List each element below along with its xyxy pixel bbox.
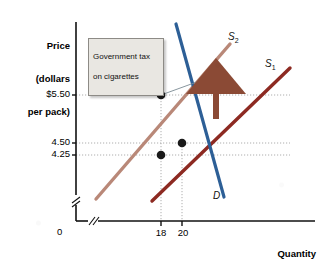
x-axis-title: Quantity (billions of packs per year) xyxy=(208,226,316,272)
government-tax-callout: Government tax on cigarettes xyxy=(88,38,164,96)
xtick-label-18: 18 xyxy=(150,227,172,238)
y-axis-title-line-3: per pack) xyxy=(6,106,70,117)
curve-label-s1: S1 xyxy=(265,58,276,71)
x-axis-title-line-1: Quantity xyxy=(208,248,316,259)
curve-label-s2: S2 xyxy=(228,31,239,44)
curve-label-s2-text: S xyxy=(228,31,235,42)
curve-label-s2-sub: 2 xyxy=(235,37,239,44)
callout-line-2: on cigarettes xyxy=(93,72,159,82)
origin-label: 0 xyxy=(57,226,62,237)
point-price-received-by-sellers xyxy=(157,151,166,160)
ytick-label-450: 4.50 xyxy=(28,136,70,147)
ytick-label-550: $5.50 xyxy=(28,88,70,99)
curve-label-s1-sub: 1 xyxy=(272,64,276,71)
curve-label-s1-text: S xyxy=(265,58,272,69)
point-equilibrium-before-tax xyxy=(178,139,187,148)
y-axis-title-line-1: Price xyxy=(6,40,70,51)
curve-label-d: D xyxy=(213,190,220,201)
xtick-label-20: 20 xyxy=(172,227,194,238)
y-axis-title: Price (dollars per pack) xyxy=(6,18,70,128)
callout-line-1: Government tax xyxy=(93,52,159,62)
ytick-label-425: 4.25 xyxy=(28,148,70,159)
y-axis-title-line-2: (dollars xyxy=(6,73,70,84)
